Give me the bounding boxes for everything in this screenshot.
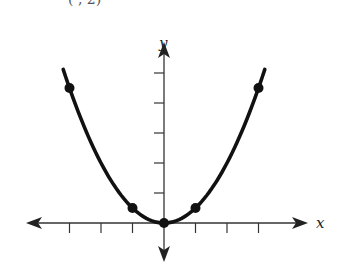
y-axis-label: y <box>158 34 168 52</box>
x-axis-label: x <box>316 214 325 232</box>
y-axis <box>154 42 170 262</box>
parabola-chart: x y <box>0 0 339 265</box>
data-point <box>128 203 138 213</box>
data-point <box>191 203 201 213</box>
data-point <box>159 218 169 228</box>
data-point <box>254 83 264 93</box>
data-point <box>65 83 75 93</box>
